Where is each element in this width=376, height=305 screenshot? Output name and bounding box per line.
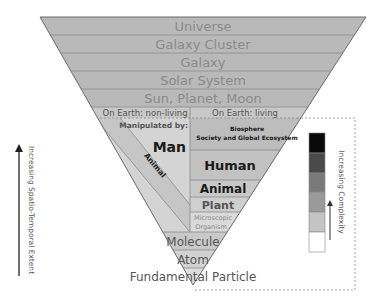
label-manipulated-by: Manipulated by: [119,121,188,130]
complexity-label: Increasing Complexity [337,150,346,234]
spatio-temporal-arrow-icon [15,144,23,276]
level-sun-planet-moon: Sun, Planet, Moon [144,91,261,106]
level-human: Human [204,158,256,173]
label-living: On Earth: living [212,108,278,118]
level-plant: Plant [202,199,234,212]
level-animal: Animal [200,182,247,196]
level-atom: Atom [177,253,209,267]
level-galaxy-cluster: Galaxy Cluster [155,37,251,52]
complexity-arrow-icon [327,200,333,240]
label-man: Man [153,139,186,155]
complexity-legend [309,133,325,252]
level-biosphere: Biosphere [230,125,264,133]
level-solar-system: Solar System [160,73,246,88]
label-non-living: On Earth: non-living [102,108,187,118]
level-molecule: Molecule [166,235,219,249]
level-universe: Universe [174,19,231,34]
level-fundamental-particle: Fundamental Particle [130,270,257,284]
level-galaxy: Galaxy [180,55,225,70]
level-biosphere-sublabel: Society and Global Ecosystem [196,134,297,142]
level-microscopic-sublabel: Organism [195,223,226,231]
hierarchy-diagram: Universe Galaxy Cluster Galaxy Solar Sys… [0,0,376,305]
level-microscopic: Microscopic [194,214,232,222]
spatio-temporal-label: Increasing Spatio-Temporal Extent [27,146,36,274]
